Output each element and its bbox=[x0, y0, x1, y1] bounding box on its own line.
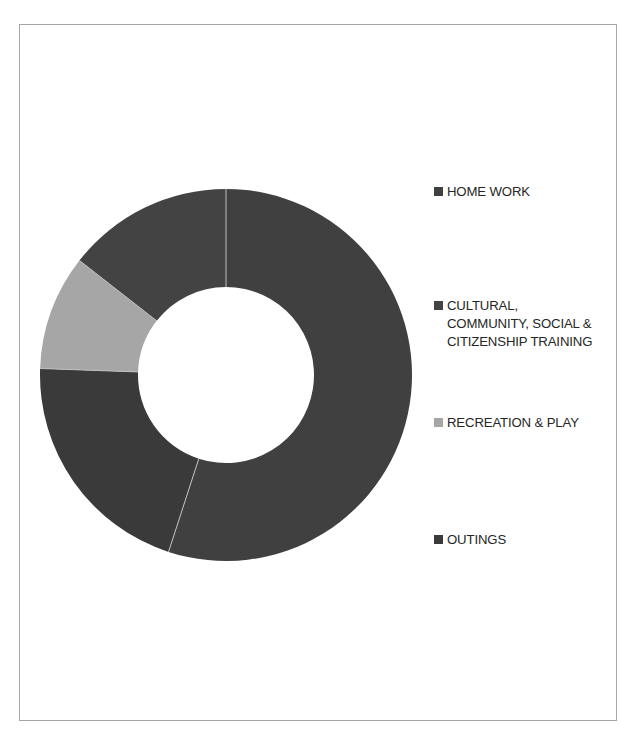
legend-label-recreation: RECREATION & PLAY bbox=[447, 415, 579, 430]
legend-item-recreation-and-play[interactable]: RECREATION & PLAY bbox=[434, 413, 599, 431]
legend-swatch-recreation bbox=[434, 418, 443, 427]
legend-swatch-home-work bbox=[434, 187, 443, 196]
legend-item-home-work[interactable]: HOME WORK bbox=[434, 182, 599, 200]
legend-swatch-cultural bbox=[434, 301, 443, 310]
donut-slice-outings[interactable] bbox=[40, 369, 199, 552]
legend-item-cultural-community-social-citizenship-training[interactable]: CULTURAL, COMMUNITY, SOCIAL & CITIZENSHI… bbox=[434, 296, 599, 350]
legend-item-outings[interactable]: OUTINGS bbox=[434, 530, 599, 548]
chart-page: HOME WORK CULTURAL, COMMUNITY, SOCIAL & … bbox=[0, 0, 638, 752]
legend-label-home-work: HOME WORK bbox=[447, 184, 530, 199]
legend-swatch-outings bbox=[434, 535, 443, 544]
donut-chart-svg bbox=[0, 0, 638, 752]
donut-chart bbox=[0, 0, 638, 752]
legend-label-outings: OUTINGS bbox=[447, 532, 506, 547]
legend-label-cultural: CULTURAL, COMMUNITY, SOCIAL & CITIZENSHI… bbox=[447, 298, 592, 349]
